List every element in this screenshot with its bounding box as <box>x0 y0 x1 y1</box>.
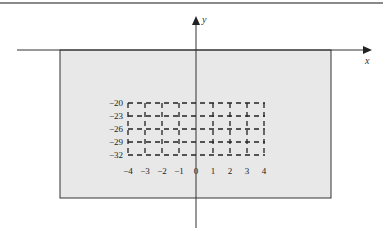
y-axis-label: y <box>201 14 207 25</box>
y-axis-arrow-icon <box>192 16 200 25</box>
y-tick: −26 <box>109 124 124 134</box>
y-tick: −32 <box>109 150 123 160</box>
coordinate-diagram: x y −20 −23 −26 −29 −32 −4 −3 −2 −1 0 1 <box>0 0 383 239</box>
x-axis-arrow-icon <box>363 46 372 54</box>
x-tick: 4 <box>262 166 267 176</box>
x-tick: 0 <box>194 166 199 176</box>
y-tick: −20 <box>109 98 124 108</box>
x-tick: −4 <box>123 166 133 176</box>
x-tick-labels: −4 −3 −2 −1 0 1 2 3 4 <box>123 166 267 176</box>
x-tick: 1 <box>211 166 216 176</box>
x-tick: −3 <box>140 166 150 176</box>
x-axis-label: x <box>364 55 370 66</box>
y-tick: −29 <box>109 137 124 147</box>
x-tick: −1 <box>174 166 184 176</box>
y-tick-labels: −20 −23 −26 −29 −32 <box>109 98 124 160</box>
x-tick: 2 <box>228 166 233 176</box>
x-tick: 3 <box>245 166 250 176</box>
x-tick: −2 <box>157 166 167 176</box>
y-tick: −23 <box>109 111 124 121</box>
